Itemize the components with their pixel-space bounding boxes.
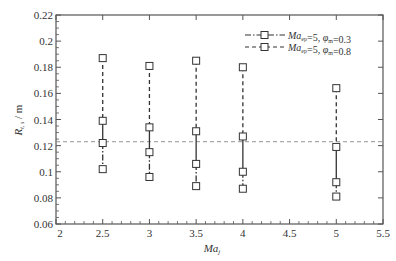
y-tick-label: 0.22 (34, 9, 53, 21)
x-tick-label: 2 (57, 227, 63, 239)
square-marker (239, 133, 246, 140)
square-marker (146, 149, 153, 156)
square-marker (333, 143, 340, 150)
y-tick-label: 0.1 (39, 166, 53, 178)
x-tick-label: 5.5 (376, 227, 390, 239)
square-marker (146, 62, 153, 69)
square-marker (333, 179, 340, 186)
square-marker (99, 140, 106, 147)
square-marker (146, 173, 153, 180)
square-marker (193, 57, 200, 64)
square-marker (333, 85, 340, 92)
x-tick-label: 5 (334, 227, 340, 239)
square-marker (193, 128, 200, 135)
legend-marker (261, 44, 268, 51)
y-tick-label: 0.16 (34, 87, 54, 99)
y-tick-label: 0.14 (34, 114, 54, 126)
x-axis-title: Maj (203, 242, 221, 256)
square-marker (99, 117, 106, 124)
legend-marker (261, 32, 268, 39)
square-marker (333, 193, 340, 200)
x-tick-label: 4 (240, 227, 246, 239)
x-tick-label: 2.5 (96, 227, 110, 239)
y-tick-label: 0.18 (34, 61, 54, 73)
square-marker (99, 166, 106, 173)
square-marker (193, 183, 200, 190)
y-tick-label: 0.12 (34, 140, 53, 152)
chart: 22.533.544.555.50.060.080.10.120.140.160… (0, 0, 396, 261)
square-marker (239, 168, 246, 175)
square-marker (99, 55, 106, 62)
y-tick-label: 0.08 (34, 192, 54, 204)
y-tick-label: 0.2 (39, 35, 53, 47)
data-series (99, 55, 340, 200)
square-marker (239, 64, 246, 71)
legend: Maep=5, φm=0.3Maep=5, φm=0.8 (245, 30, 351, 57)
square-marker (239, 185, 246, 192)
y-axis-title: Rt, s / m (12, 104, 25, 136)
x-tick-label: 3.5 (189, 227, 203, 239)
x-tick-label: 3 (147, 227, 153, 239)
x-tick-label: 4.5 (283, 227, 297, 239)
square-marker (193, 160, 200, 167)
square-marker (146, 124, 153, 131)
y-tick-label: 0.06 (34, 218, 54, 230)
